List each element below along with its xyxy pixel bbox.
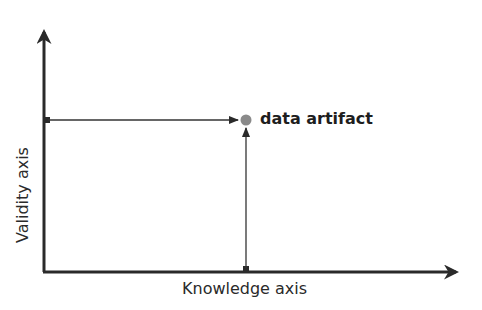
point-label: data artifact [260, 109, 373, 128]
diagram-canvas [0, 0, 482, 310]
data-artifact-point [241, 115, 252, 126]
y-axis-label: Validity axis [13, 147, 32, 243]
x-axis-label: Knowledge axis [182, 279, 307, 298]
